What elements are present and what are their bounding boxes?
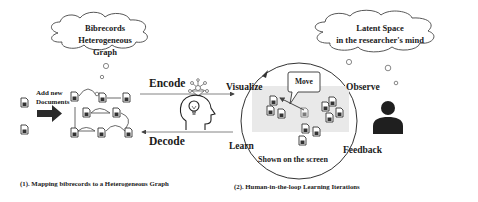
left-cloud-line1: Bibrecords [70, 22, 140, 34]
left-cloud-line2: Heterogeneous Graph [70, 34, 140, 58]
move-callout-label: Move [288, 77, 320, 86]
screen-label: Shown on the screen [258, 155, 328, 164]
left-cloud-text: Bibrecords Heterogeneous Graph [70, 22, 140, 58]
feedback-label: Feedback [343, 145, 382, 155]
graph-nodes [71, 92, 132, 137]
add-documents-label: Add new Documents [36, 89, 69, 107]
decode-label: Decode [149, 135, 185, 147]
right-cloud-text: Latent Space in the researcher's mind [330, 22, 430, 46]
head-with-lightbulb-icon [180, 95, 215, 130]
right-arrow-icon [37, 105, 62, 122]
person-icon [373, 101, 403, 134]
right-cloud-line1: Latent Space [330, 22, 430, 34]
add-documents-line2: Documents [36, 98, 69, 107]
encode-label: Encode [149, 77, 185, 89]
screen-area [252, 86, 349, 132]
add-documents-line1: Add new [36, 89, 69, 98]
learn-label: Learn [229, 141, 254, 151]
right-cloud-line2: in the researcher's mind [330, 34, 430, 46]
network-icon [189, 79, 209, 96]
input-documents [21, 98, 28, 134]
caption-right: (2). Human-in-the-loop Learning Iteratio… [234, 183, 360, 190]
observe-label: Observe [346, 82, 380, 92]
visualize-label: Visualize [226, 82, 263, 92]
caption-left: (1). Mapping bibrecords to a Heterogeneo… [20, 180, 169, 187]
loop-arrowhead [262, 70, 268, 78]
